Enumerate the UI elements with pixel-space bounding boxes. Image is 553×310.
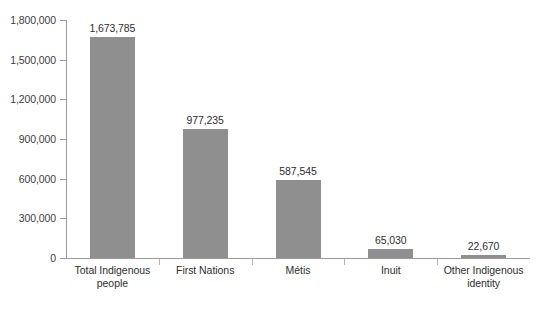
x-axis-category-label-line: Total Indigenous [66,264,159,277]
bar-value-label: 977,235 [187,114,224,126]
y-axis-tick-label: 300,000 [2,212,56,224]
bar[interactable]: 587,545 [276,180,321,258]
x-axis-category-label: First Nations [159,264,252,277]
bar-value-label: 1,673,785 [89,22,135,34]
y-axis-tick-label: 0 [2,252,56,264]
x-axis-category-label-line: identity [437,277,530,290]
y-axis-tick-label: 1,800,000 [2,14,56,26]
x-axis-category-label-line: Inuit [344,264,437,277]
bar[interactable]: 977,235 [183,129,228,258]
y-axis-line [66,20,67,259]
x-axis-category-label-line: First Nations [159,264,252,277]
y-axis-tick-label: 900,000 [2,133,56,145]
bar-group: 22,670 [461,20,506,258]
y-axis-tick-label: 1,200,000 [2,93,56,105]
bar-value-label: 587,545 [279,165,316,177]
bar-chart-figure: 0300,000600,000900,0001,200,0001,500,000… [0,0,553,310]
y-axis-tick-label-wrap: 1,500,000 [0,54,56,66]
bar-value-label: 22,670 [468,240,500,252]
x-axis-category-label-line: people [66,277,159,290]
x-axis-line [66,258,530,259]
y-axis-tick-label: 1,500,000 [2,54,56,66]
y-axis-tick-label-wrap: 600,000 [0,173,56,185]
bar-group: 587,545 [276,20,321,258]
x-axis-category-label: Inuit [344,264,437,277]
y-axis-tick-label-wrap: 900,000 [0,133,56,145]
y-axis-tick-label-wrap: 1,800,000 [0,14,56,26]
x-axis-category-label-line: Other Indigenous [437,264,530,277]
y-axis-tick-label-wrap: 0 [0,252,56,264]
bar-value-label: 65,030 [375,234,407,246]
bar[interactable]: 65,030 [368,249,413,258]
x-axis-category-label: Total Indigenouspeople [66,264,159,289]
bar-group: 1,673,785 [90,20,135,258]
y-axis-tick-label-wrap: 1,200,000 [0,93,56,105]
x-axis-category-label: Métis [252,264,345,277]
bar[interactable]: 22,670 [461,255,506,258]
bar-group: 65,030 [368,20,413,258]
bar[interactable]: 1,673,785 [90,37,135,258]
x-axis-category-label: Other Indigenousidentity [437,264,530,289]
y-axis-tick-label: 600,000 [2,173,56,185]
bar-group: 977,235 [183,20,228,258]
y-axis-tick-label-wrap: 300,000 [0,212,56,224]
x-axis-category-label-line: Métis [252,264,345,277]
